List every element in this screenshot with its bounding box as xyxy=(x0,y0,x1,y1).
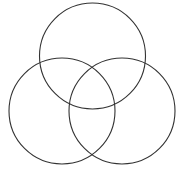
figure-caption xyxy=(0,167,184,178)
venn-diagram-canvas xyxy=(0,0,184,178)
venn-diagram-figure xyxy=(0,0,184,178)
